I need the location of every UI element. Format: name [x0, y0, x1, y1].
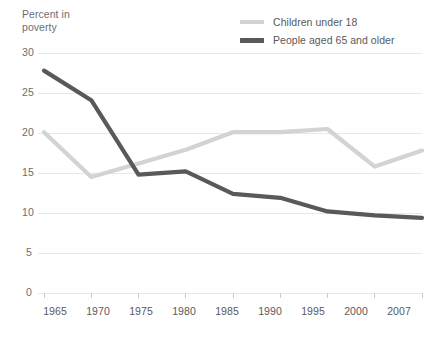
plot-area [0, 0, 433, 340]
gridlines [38, 53, 422, 293]
x-axis-ticks [44, 293, 422, 298]
poverty-line-chart: Percent in poverty Children under 18 Peo… [0, 0, 433, 340]
series-line-children [44, 129, 422, 177]
